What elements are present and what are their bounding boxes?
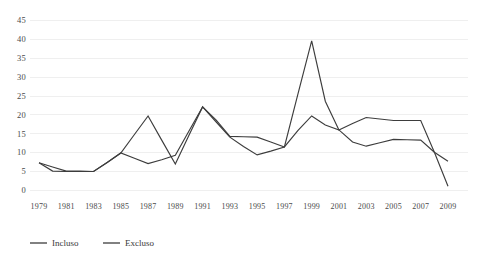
y-axis-tick-label: 20 [17, 110, 26, 120]
chart-canvas: 051015202530354045 197919811983198519871… [0, 0, 477, 265]
x-axis-tick-label: 1999 [303, 202, 320, 211]
x-axis-tick-label: 2007 [412, 202, 429, 211]
x-axis-tick-label: 1987 [140, 202, 157, 211]
y-axis-tick-label: 40 [17, 34, 26, 44]
y-axis-tick-label: 45 [17, 15, 26, 25]
y-axis-tick-label: 30 [17, 72, 26, 82]
y-axis-tick-label: 0 [22, 185, 26, 195]
y-axis-tick-labels: 051015202530354045 [17, 15, 26, 195]
series-lines [39, 41, 448, 186]
y-axis-tick-label: 5 [22, 166, 26, 176]
x-axis-tick-label: 1993 [221, 202, 238, 211]
x-axis-tick-labels: 1979198119831985198719891991199319951997… [31, 202, 457, 211]
x-axis-tick-label: 2005 [385, 202, 402, 211]
x-axis-tick-label: 1991 [194, 202, 211, 211]
x-axis-tick-label: 1985 [112, 202, 129, 211]
x-axis-tick-label: 1995 [249, 202, 266, 211]
x-axis-tick-label: 1983 [85, 202, 102, 211]
x-axis-tick-label: 2001 [331, 202, 348, 211]
series-line-excluso [39, 41, 448, 186]
x-axis-tick-label: 1989 [167, 202, 184, 211]
series-line-incluso [39, 107, 448, 172]
x-axis-tick-label: 1979 [31, 202, 48, 211]
x-axis-tick-label: 1997 [276, 202, 293, 211]
y-axis-tick-label: 25 [17, 91, 26, 101]
line-chart: 051015202530354045 197919811983198519871… [0, 0, 477, 265]
gridlines [30, 21, 468, 191]
y-axis-tick-label: 10 [17, 147, 26, 157]
y-axis-tick-label: 15 [17, 129, 26, 139]
legend-label-incluso[interactable]: Incluso [52, 238, 79, 248]
x-axis-tick-label: 1981 [58, 202, 75, 211]
legend-label-excluso[interactable]: Excluso [125, 238, 154, 248]
x-axis-tick-label: 2009 [440, 202, 457, 211]
chart-legend: InclusoExcluso [30, 238, 154, 248]
x-axis-tick-label: 2003 [358, 202, 375, 211]
y-axis-tick-label: 35 [17, 53, 26, 63]
